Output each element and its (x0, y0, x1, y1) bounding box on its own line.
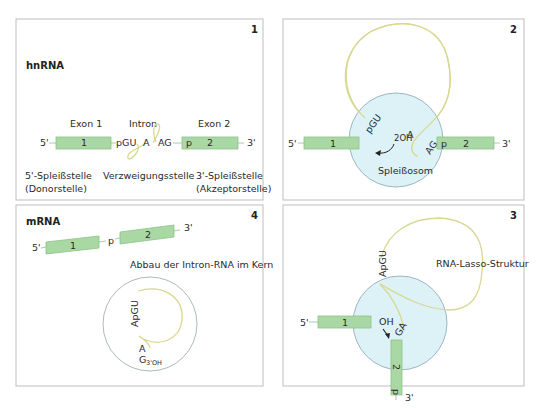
five-prime-end: 5' (32, 242, 41, 253)
spliceosome-label: Spleißosom (378, 165, 433, 176)
donor-site-sublabel: (Donorstelle) (25, 183, 87, 194)
p-label: p (186, 137, 192, 148)
three-prime-end: 3' (405, 392, 414, 403)
exon-2-number: 2 (463, 138, 469, 149)
panel-3-lasso: 3 ApGU RNA-Lasso-Struktur 5' 1 OH GA 2 p… (283, 205, 529, 403)
exon-2-number: 2 (207, 137, 213, 148)
five-prime-end: 5' (40, 137, 49, 148)
exon1-label: Exon 1 (70, 118, 102, 129)
apgu-label: ApGU (129, 300, 140, 327)
exon-2-number: 2 (391, 364, 402, 370)
three-prime-end: 3' (184, 222, 193, 233)
exon-1-number: 1 (70, 240, 76, 251)
exon-1-number: 1 (81, 137, 87, 148)
acceptor-site-sublabel: (Akzeptorstelle) (196, 183, 271, 194)
donor-site-label: 5'-Spleißstelle (25, 170, 92, 181)
panel-1-hnrna: 1 hnRNA Exon 1 Intron Exon 2 5' 1 pGU A … (16, 19, 271, 200)
panel-4-mrna: 4 mRNA 5' 1 p 2 3' Abbau der Intron-RNA … (16, 205, 273, 386)
apgu-label: ApGU (377, 250, 388, 277)
five-prime-end: 5' (288, 138, 297, 149)
lasso-structure-label: RNA-Lasso-Struktur (436, 258, 529, 269)
exon-2-number: 2 (145, 229, 151, 240)
three-prime-end: 3' (502, 138, 511, 149)
exon-1-number: 1 (342, 317, 348, 328)
splicing-diagram: 1 hnRNA Exon 1 Intron Exon 2 5' 1 pGU A … (0, 0, 541, 408)
branch-site-label: Verzweigungsstelle (103, 170, 195, 181)
panel-1-heading: hnRNA (26, 60, 64, 71)
pgu-label: pGU (116, 137, 136, 148)
a-label: A (139, 343, 146, 354)
p-label: p (108, 235, 114, 246)
panel-2-number: 2 (510, 24, 517, 35)
intron-degradation-label: Abbau der Intron-RNA im Kern (130, 259, 273, 270)
p-label: p (391, 389, 402, 395)
intron-label: Intron (129, 118, 157, 129)
panel-4-number: 4 (251, 210, 258, 221)
exon-1-number: 1 (330, 138, 336, 149)
three-prime-end: 3' (247, 137, 256, 148)
branch-a-label: A (407, 129, 414, 140)
panel-3-number: 3 (510, 210, 517, 221)
panel-1-number: 1 (251, 24, 258, 35)
branch-a-label: A (143, 137, 150, 148)
five-prime-end: 5' (300, 317, 309, 328)
g-3oh-subscript: 3'OH (146, 359, 162, 367)
exon2-label: Exon 2 (198, 118, 230, 129)
panel-4-heading: mRNA (26, 216, 60, 227)
ag-label: AG (158, 137, 172, 148)
panel-2-spliceosome: 2 5' 1 pGU 2OH A AG p 2 3' Spleißosom (283, 19, 524, 200)
acceptor-site-label: 3'-Spleißstelle (196, 170, 263, 181)
nucleus-circle (103, 277, 197, 371)
oh-label: OH (379, 316, 394, 327)
p-label: p (441, 138, 447, 149)
